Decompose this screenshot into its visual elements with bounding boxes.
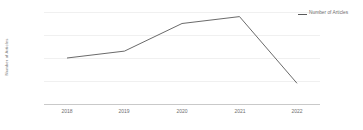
x-tick-label-2019: 2019	[109, 108, 139, 114]
line-chart: Number of Articles 40 30 20 10 0 2018 20…	[0, 0, 363, 130]
x-tick-label-2022: 2022	[282, 108, 312, 114]
legend-entry-label: Number of Articles	[309, 10, 348, 16]
plot-area: 40 30 20 10 0 2018 2019 2020 2021 2022	[44, 12, 320, 104]
series-line-number-of-articles	[44, 12, 320, 104]
y-axis-title: Number of Articles	[2, 22, 12, 92]
x-tick-label-2021: 2021	[225, 108, 255, 114]
legend-line-marker-icon	[298, 14, 307, 15]
x-tick-label-2018: 2018	[52, 108, 82, 114]
chart-legend: Number of Articles	[298, 10, 360, 16]
x-axis-line	[44, 104, 320, 105]
x-tick-label-2020: 2020	[167, 108, 197, 114]
